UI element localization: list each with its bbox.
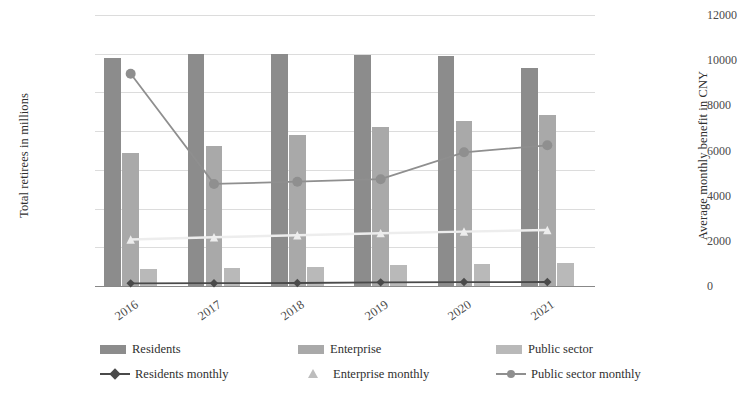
marker-circle — [126, 69, 136, 79]
legend-marker-key — [100, 368, 130, 380]
marker-circle — [542, 140, 552, 150]
legend-label: Residents — [132, 342, 181, 357]
legend-item-public-sector[interactable]: Public sector — [496, 338, 593, 360]
y-axis-right-tick-label: 0 — [707, 280, 742, 292]
line-enterprise-monthly — [131, 230, 548, 240]
marker-diamond — [460, 278, 468, 286]
y-axis-right-tick-label: 10000 — [707, 54, 742, 66]
gridline — [95, 286, 595, 287]
y-axis-right-tick-label: 12000 — [707, 9, 742, 21]
marker-diamond — [376, 278, 384, 286]
x-axis-tick-label: 2019 — [340, 297, 391, 339]
y-axis-right-tick-label: 6000 — [707, 145, 742, 157]
legend-marker-key — [298, 368, 328, 380]
y-axis-left-title: Total retirees in millions — [17, 56, 32, 256]
legend-item-enterprise-monthly[interactable]: Enterprise monthly — [298, 363, 429, 385]
x-axis-tick-label: 2021 — [506, 297, 557, 339]
y-axis-right-tick-label: 4000 — [707, 190, 742, 202]
marker-circle — [209, 179, 219, 189]
marker-diamond — [293, 279, 301, 287]
y-axis-right-tick-label: 8000 — [707, 99, 742, 111]
marker-circle — [376, 174, 386, 184]
line-residents-monthly — [131, 282, 548, 283]
marker-circle — [292, 177, 302, 187]
legend-marker-diamond — [109, 368, 120, 379]
x-axis-tick-label: 2017 — [173, 297, 224, 339]
plot-area: 0.002.004.006.008.0010.0012.0014.00 0200… — [95, 15, 595, 286]
line-public-sector-monthly — [131, 74, 548, 184]
y-axis-right-tick-label: 2000 — [707, 235, 742, 247]
legend-label: Residents monthly — [135, 367, 228, 382]
legend-label: Public sector monthly — [531, 367, 641, 382]
x-axis-tick-label: 2018 — [256, 297, 307, 339]
legend-label: Public sector — [528, 342, 593, 357]
legend-swatch — [496, 345, 522, 354]
chart-legend: ResidentsEnterprisePublic sectorResident… — [100, 338, 640, 388]
marker-circle — [459, 147, 469, 157]
x-axis-tick-label: 2020 — [423, 297, 474, 339]
line-series-overlay — [95, 15, 595, 286]
x-axis-tick-label: 2016 — [90, 297, 141, 339]
legend-marker-key — [496, 368, 526, 380]
legend-item-enterprise[interactable]: Enterprise — [298, 338, 381, 360]
legend-label: Enterprise monthly — [333, 367, 429, 382]
legend-marker-triangle — [308, 369, 318, 378]
legend-label: Enterprise — [330, 342, 381, 357]
legend-swatch — [100, 345, 126, 354]
legend-item-public-sector-monthly[interactable]: Public sector monthly — [496, 363, 641, 385]
legend-swatch — [298, 345, 324, 354]
marker-diamond — [543, 278, 551, 286]
legend-item-residents[interactable]: Residents — [100, 338, 181, 360]
legend-marker-circle — [507, 370, 515, 378]
legend-item-residents-monthly[interactable]: Residents monthly — [100, 363, 228, 385]
